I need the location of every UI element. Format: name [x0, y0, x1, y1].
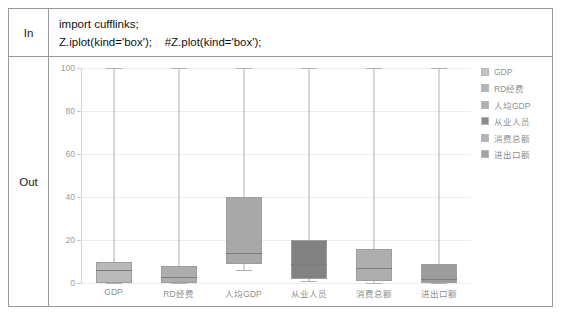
legend-item-4[interactable]: 消费总额	[481, 131, 553, 144]
legend-item-3[interactable]: 从业人员	[481, 115, 553, 128]
output-gutter: Out	[9, 57, 49, 307]
legend-item-0[interactable]: GDP	[481, 65, 553, 78]
x-tick-label-0: GDP	[104, 287, 122, 297]
legend-item-5[interactable]: 进出口额	[481, 148, 553, 161]
median-line	[291, 264, 327, 265]
whisker-cap-max	[170, 68, 186, 69]
whisker-cap-max	[430, 68, 446, 69]
legend-label: 人均GDP	[494, 99, 530, 111]
box-plot-series[interactable]	[421, 68, 457, 283]
chart-legend[interactable]: GDPRD经费人均GDP从业人员消费总额进出口额	[481, 65, 553, 164]
y-tickmark-100	[77, 68, 81, 69]
whisker-cap-min	[365, 283, 381, 284]
legend-swatch-icon	[481, 101, 489, 109]
y-tick-label-20: 20	[66, 235, 75, 245]
box-rect[interactable]	[96, 262, 132, 284]
legend-label: 消费总额	[494, 132, 530, 144]
legend-label: 从业人员	[494, 115, 530, 127]
y-tick-label-0: 0	[70, 278, 75, 288]
box-plot-series[interactable]	[356, 68, 392, 283]
in-label: In	[24, 27, 34, 39]
x-tick-label-2: 人均GDP	[225, 287, 261, 299]
legend-label: 进出口额	[494, 148, 530, 160]
legend-label: GDP	[494, 67, 512, 77]
box-rect[interactable]	[161, 266, 197, 283]
whisker-line	[178, 68, 179, 283]
code-editor[interactable]: import cufflinks; Z.iplot(kind='box'); #…	[49, 9, 552, 56]
median-line	[421, 279, 457, 280]
box-rect[interactable]	[356, 249, 392, 281]
screenshot-root: In import cufflinks; Z.iplot(kind='box')…	[0, 0, 562, 316]
y-tick-label-80: 80	[66, 106, 75, 116]
output-cell-row: Out 020406080100 GDPRD经费人均GDP从业人员消费总额进出口…	[9, 57, 552, 307]
median-line	[226, 253, 262, 254]
x-tick-label-4: 消费总额	[356, 287, 392, 299]
gridline-y-0	[81, 283, 471, 284]
code-line-2: Z.iplot(kind='box'); #Z.plot(kind='box')…	[59, 33, 552, 51]
x-tick-label-1: RD经费	[163, 287, 193, 299]
median-line	[96, 270, 132, 271]
whisker-cap-max	[235, 68, 251, 69]
whisker-line	[113, 68, 114, 283]
whisker-cap-min	[235, 270, 251, 271]
whisker-cap-max	[365, 68, 381, 69]
legend-swatch-icon	[481, 84, 489, 92]
gridline-y-40	[81, 197, 471, 198]
y-tickmark-40	[77, 197, 81, 198]
whisker-cap-max	[105, 68, 121, 69]
plot-area: 020406080100	[81, 68, 471, 283]
legend-swatch-icon	[481, 134, 489, 142]
box-plot-series[interactable]	[226, 68, 262, 283]
legend-swatch-icon	[481, 150, 489, 158]
input-cell-row: In import cufflinks; Z.iplot(kind='box')…	[9, 9, 552, 57]
whisker-cap-max	[300, 68, 316, 69]
box-plot-chart: 020406080100 GDPRD经费人均GDP从业人员消费总额进出口额 GD…	[49, 57, 554, 307]
box-plot-series[interactable]	[96, 68, 132, 283]
code-line-1: import cufflinks;	[59, 15, 552, 33]
legend-swatch-icon	[481, 68, 489, 76]
y-tickmark-80	[77, 111, 81, 112]
y-tickmark-60	[77, 154, 81, 155]
whisker-cap-min	[105, 283, 121, 284]
y-tick-label-100: 100	[61, 63, 75, 73]
median-line	[356, 268, 392, 269]
y-tick-label-40: 40	[66, 192, 75, 202]
whisker-cap-min	[300, 281, 316, 282]
notebook-cell-table: In import cufflinks; Z.iplot(kind='box')…	[8, 8, 553, 307]
x-tick-label-3: 从业人员	[291, 287, 327, 299]
y-tickmark-0	[77, 283, 81, 284]
legend-item-1[interactable]: RD经费	[481, 82, 553, 95]
box-rect[interactable]	[291, 240, 327, 279]
gridline-y-60	[81, 154, 471, 155]
whisker-cap-min	[430, 283, 446, 284]
legend-swatch-icon	[481, 117, 489, 125]
y-tickmark-20	[77, 240, 81, 241]
box-rect[interactable]	[421, 264, 457, 283]
gridline-y-80	[81, 111, 471, 112]
median-line	[161, 277, 197, 278]
gridline-y-20	[81, 240, 471, 241]
gridline-y-100	[81, 68, 471, 69]
output-area: 020406080100 GDPRD经费人均GDP从业人员消费总额进出口额 GD…	[49, 57, 552, 307]
input-gutter: In	[9, 9, 49, 56]
box-plot-series[interactable]	[161, 68, 197, 283]
whisker-cap-min	[170, 283, 186, 284]
x-tick-label-5: 进出口额	[421, 287, 457, 299]
whisker-line	[438, 68, 439, 283]
legend-label: RD经费	[494, 82, 524, 94]
box-plot-series[interactable]	[291, 68, 327, 283]
y-tick-label-60: 60	[66, 149, 75, 159]
legend-item-2[interactable]: 人均GDP	[481, 98, 553, 111]
out-label: Out	[19, 176, 38, 188]
